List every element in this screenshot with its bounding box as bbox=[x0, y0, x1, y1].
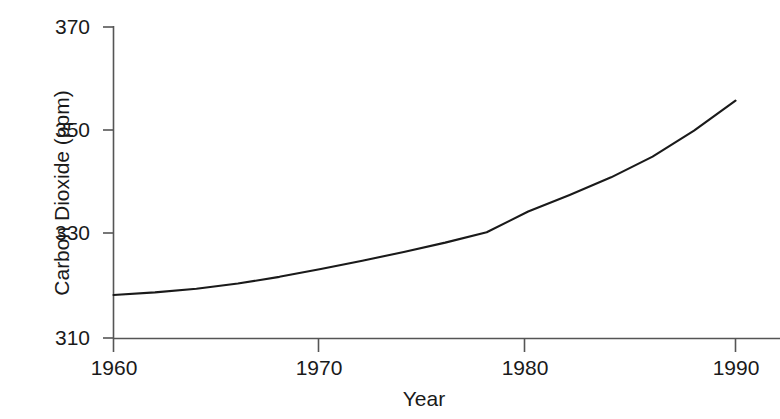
y-tick-label-370: 370 bbox=[28, 16, 90, 37]
x-tick-label-1980: 1980 bbox=[485, 357, 565, 378]
x-tick-label-1990: 1990 bbox=[696, 357, 776, 378]
x-tick-label-1960: 1960 bbox=[74, 357, 154, 378]
co2-line-chart: 370 350 330 310 1960 1970 1980 1990 Carb… bbox=[0, 0, 780, 419]
co2-data-curve bbox=[114, 101, 736, 295]
x-tick-label-1970: 1970 bbox=[279, 357, 359, 378]
y-axis-title: Carbon Dioxide (ppm) bbox=[50, 53, 74, 333]
x-axis-title: Year bbox=[113, 387, 735, 411]
